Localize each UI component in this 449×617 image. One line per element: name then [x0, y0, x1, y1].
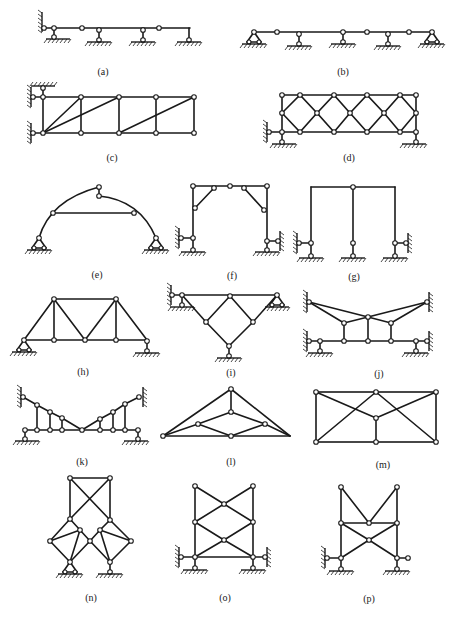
label-e: (e): [82, 269, 112, 280]
label-g: (g): [339, 271, 369, 282]
label-p: (p): [354, 593, 384, 604]
panel-n-tower-truss: [48, 476, 134, 578]
label-k: (k): [67, 456, 97, 467]
structural-diagrams: [0, 0, 449, 617]
label-m: (m): [368, 459, 398, 470]
label-f: (f): [217, 270, 247, 281]
panel-a-multispan-beam: [38, 10, 202, 46]
label-a: (a): [88, 66, 118, 77]
label-o: (o): [210, 592, 240, 603]
panel-o-x-braced-tower: [175, 484, 271, 574]
label-n: (n): [76, 592, 106, 603]
panel-b-multispan-beam: [240, 30, 445, 50]
label-c: (c): [97, 152, 127, 163]
panel-l-roof-truss: [161, 387, 290, 439]
label-l: (l): [216, 456, 246, 467]
label-h: (h): [68, 366, 98, 377]
panel-e-three-hinged-arch: [25, 185, 169, 254]
panel-m-rect-truss: [314, 390, 439, 445]
label-d: (d): [334, 152, 364, 163]
panel-c-truss: [27, 82, 196, 144]
label-i: (i): [216, 367, 246, 378]
panel-p-braced-tower: [321, 485, 410, 575]
panel-j-suspended-system: [303, 290, 433, 357]
panel-i-inverted-truss: [167, 283, 290, 362]
panel-k-combined-system: [13, 385, 149, 445]
panel-h-truss: [10, 297, 160, 357]
label-j: (j): [364, 368, 394, 379]
panel-f-portal-frame: [175, 184, 284, 256]
panel-d-diamond-truss: [263, 93, 427, 148]
label-b: (b): [328, 66, 358, 77]
panel-g-two-bay-frame: [293, 185, 412, 262]
